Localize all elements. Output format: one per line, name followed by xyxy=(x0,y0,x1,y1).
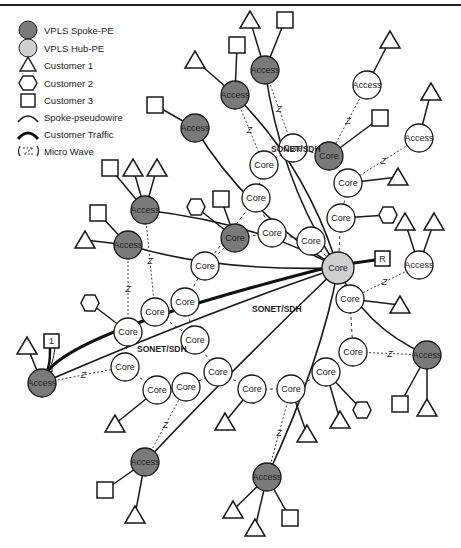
hexagon-icon xyxy=(19,76,37,90)
thick-arc-icon xyxy=(18,133,38,139)
customer-1-triangle-icon xyxy=(123,159,143,176)
core-node: Core xyxy=(258,219,286,247)
node-label: Core xyxy=(195,261,215,271)
customer-1-triangle-icon xyxy=(215,413,235,430)
core-node: Core xyxy=(143,376,171,404)
customer-1-triangle-icon xyxy=(395,213,415,230)
router-r: R xyxy=(375,251,390,266)
legend: VPLS Spoke-PE VPLS Hub-PE Customer 1 Cus… xyxy=(18,21,123,157)
core-node: Access xyxy=(404,124,434,152)
node-label: Core xyxy=(316,367,336,377)
core-node: Core xyxy=(312,358,340,386)
core-node: Core xyxy=(334,169,362,197)
node-label: Access xyxy=(113,240,143,250)
spoke-pe-node: Core xyxy=(221,224,249,252)
core-node: Core xyxy=(171,288,199,316)
node-label: Core xyxy=(262,228,282,238)
customer-1-triangle-icon xyxy=(388,168,408,185)
node-label: Core xyxy=(301,236,321,246)
node-label: Access xyxy=(250,65,280,75)
spoke-pe-node: Access xyxy=(180,114,210,142)
hub-label: Core xyxy=(328,263,348,273)
sonet-label-top: SONET/SDH xyxy=(271,144,321,154)
node-label: Core xyxy=(175,297,195,307)
customer-1-triangle-icon xyxy=(424,213,444,230)
customer-1-triangle-icon xyxy=(297,425,317,442)
customer-3-square-icon xyxy=(277,12,293,28)
customer-1-triangle-icon xyxy=(421,83,441,100)
router-1: 1 xyxy=(44,334,59,348)
customer-1-triangle-icon xyxy=(330,411,350,428)
core-node: Core xyxy=(172,373,200,401)
spoke-pe-node: Access xyxy=(250,56,280,84)
spoke-pe-node: Access xyxy=(220,81,250,109)
core-node: Core xyxy=(204,358,232,386)
router-1-label: 1 xyxy=(49,336,54,346)
node-label: Access xyxy=(180,123,210,133)
router-r-label: R xyxy=(379,254,386,264)
spoke-pe-node: Access xyxy=(130,196,160,224)
microwave-glyph: Z xyxy=(275,428,282,438)
customer-3-square-icon xyxy=(147,97,163,113)
node-label: Core xyxy=(115,362,135,372)
node-label: Core xyxy=(338,178,358,188)
microwave-glyph: Z xyxy=(80,370,87,380)
microwave-glyph: Z xyxy=(275,104,282,114)
customer-3-square-icon xyxy=(102,160,118,176)
spoke-pe-node: Access xyxy=(252,463,282,491)
node-label: Core xyxy=(118,327,138,337)
customer-3-square-icon xyxy=(213,191,229,207)
legend-customer-3: Customer 3 xyxy=(44,95,93,106)
node-label: Access xyxy=(404,260,434,270)
customer-2-hexagon-icon xyxy=(353,402,371,418)
core-node: Core xyxy=(250,151,278,179)
node-label: Core xyxy=(147,385,167,395)
node-label: Core xyxy=(176,382,196,392)
node-label: Core xyxy=(319,151,339,161)
core-node: Core xyxy=(141,298,169,326)
node-label: Access xyxy=(412,350,442,360)
customer-1-triangle-icon xyxy=(417,399,437,416)
spoke-pe-node: Access xyxy=(27,369,57,397)
customer-3-square-icon xyxy=(282,510,298,526)
customer-1-triangle-icon xyxy=(240,11,260,28)
node-label: Access xyxy=(27,378,57,388)
customer-1-triangle-icon xyxy=(245,519,265,536)
square-icon xyxy=(21,94,35,107)
spoke-pe-node: Access xyxy=(130,448,160,476)
legend-customer-traffic: Customer Traffic xyxy=(44,129,114,140)
sonet-label-mid: SONET/SDH xyxy=(252,304,302,314)
node-label: Access xyxy=(404,133,434,143)
core-node: Core xyxy=(327,204,355,232)
light-circle-icon xyxy=(19,39,37,57)
spoke-pe-node: Access xyxy=(412,341,442,369)
node-label: Core xyxy=(281,384,301,394)
customer-3-square-icon xyxy=(229,37,245,53)
microwave-glyph: Z xyxy=(380,156,387,166)
node-label: Core xyxy=(254,160,274,170)
core-node: Access xyxy=(404,251,434,279)
customer-3-square-icon xyxy=(392,396,408,412)
core-node: Core xyxy=(277,375,305,403)
hub-pe-node: Core xyxy=(322,252,354,284)
sonet-label-left: SONET/SDH xyxy=(137,344,187,354)
customer-1-triangle-icon xyxy=(17,337,37,354)
legend-customer-2: Customer 2 xyxy=(44,78,93,89)
customer-2-hexagon-icon xyxy=(187,199,205,215)
legend-micro-wave: Micro Wave xyxy=(44,146,94,157)
legend-spoke-pseudowire: Spoke-pseudowire xyxy=(44,112,123,123)
microwave-glyph: Z xyxy=(381,277,388,287)
node-label: Core xyxy=(331,213,351,223)
node-label: Core xyxy=(246,193,266,203)
microwave-glyph: Z xyxy=(386,349,393,359)
node-label: Core xyxy=(145,307,165,317)
core-node: Core xyxy=(336,285,364,313)
customer-1-triangle-icon xyxy=(380,31,400,48)
microwave-glyph: Z xyxy=(162,420,169,430)
node-label: Core xyxy=(225,233,245,243)
core-node: Core xyxy=(114,318,142,346)
node-label: Access xyxy=(352,80,382,90)
spoke-pe-node: Access xyxy=(113,231,143,259)
microwave-glyph: Z xyxy=(146,256,153,266)
triangle-icon xyxy=(20,57,36,71)
